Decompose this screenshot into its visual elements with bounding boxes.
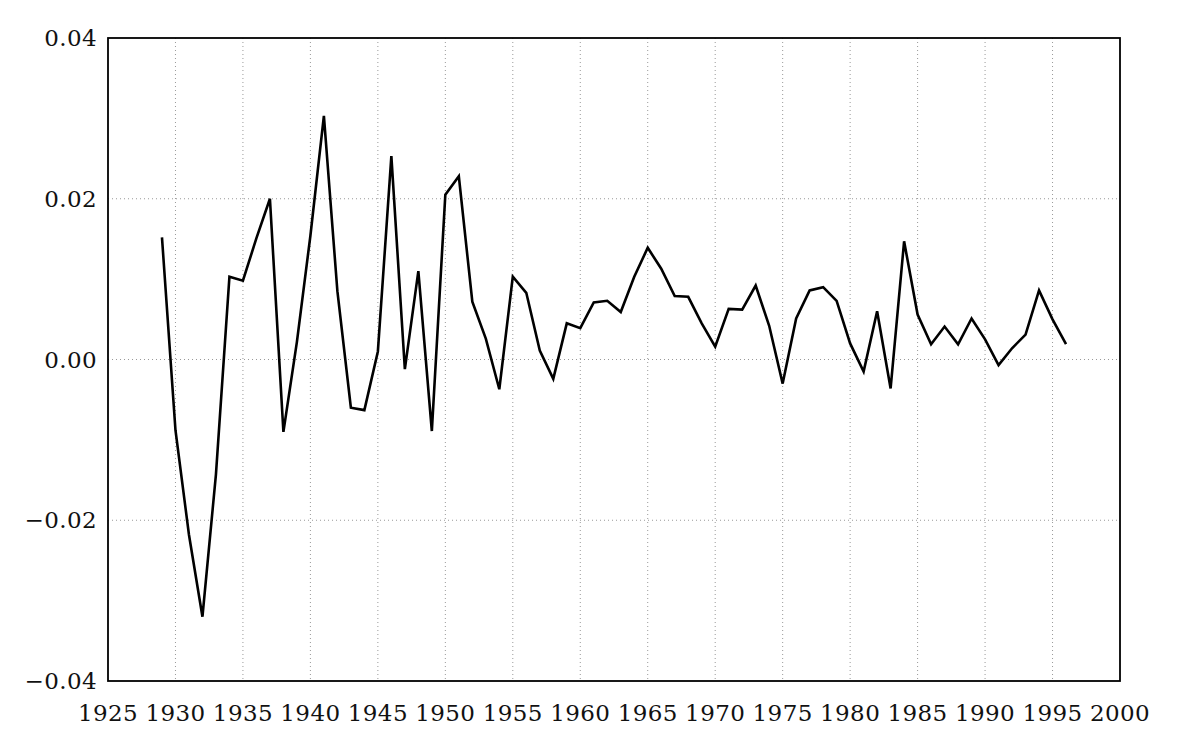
- line-chart-figure: 0.040.020.00−0.02−0.04 19251930193519401…: [0, 0, 1183, 751]
- y-axis-tick-label: −0.02: [0, 507, 97, 533]
- x-axis-tick-label: 1980: [820, 700, 880, 726]
- x-axis-tick-label: 1940: [280, 700, 340, 726]
- x-axis-tick-label: 1975: [753, 700, 813, 726]
- x-axis-tick-label: 1960: [550, 700, 610, 726]
- y-axis-tick-label: −0.04: [0, 668, 97, 694]
- x-axis-tick-label: 1930: [145, 700, 205, 726]
- y-axis-tick-label: 0.00: [0, 347, 97, 373]
- x-axis-tick-label: 1990: [955, 700, 1015, 726]
- x-axis-tick-label: 1925: [78, 700, 138, 726]
- x-axis-tick-label: 1955: [483, 700, 543, 726]
- x-axis-tick-label: 1950: [415, 700, 475, 726]
- data-series-line: [162, 116, 1066, 617]
- y-axis-tick-label: 0.04: [0, 25, 97, 51]
- x-axis-tick-label: 1985: [888, 700, 948, 726]
- y-axis-tick-label: 0.02: [0, 186, 97, 212]
- x-axis-tick-label: 1945: [348, 700, 408, 726]
- x-axis-tick-label: 1970: [685, 700, 745, 726]
- plot-area: [0, 0, 1183, 751]
- x-axis-tick-label: 1995: [1022, 700, 1082, 726]
- y-gridlines: [108, 199, 1120, 521]
- x-axis-tick-label: 1935: [213, 700, 273, 726]
- x-axis-tick-label: 1965: [618, 700, 678, 726]
- x-axis-tick-label: 2000: [1090, 700, 1150, 726]
